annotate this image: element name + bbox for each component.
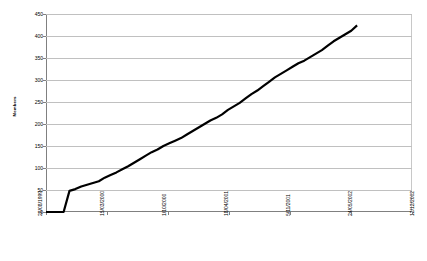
x-tick-label: 24/05/2002	[348, 191, 353, 216]
members-growth-chart: 450 400 350 300 250 200 150 100 50 0 Mem…	[0, 0, 427, 261]
x-tick-label: 18/04/2001	[224, 191, 229, 216]
x-tick-label: 12/12/2002	[410, 191, 415, 216]
x-tick-label: 28/08/1999	[38, 191, 43, 216]
x-tick-label: 5/11/2001	[286, 194, 291, 216]
x-tick-label: 1/10/2000	[162, 194, 167, 216]
x-axis-tick-labels: 28/08/1999 15/03/2000 1/10/2000 18/04/20…	[0, 0, 427, 261]
x-tick-label: 15/03/2000	[100, 191, 105, 216]
